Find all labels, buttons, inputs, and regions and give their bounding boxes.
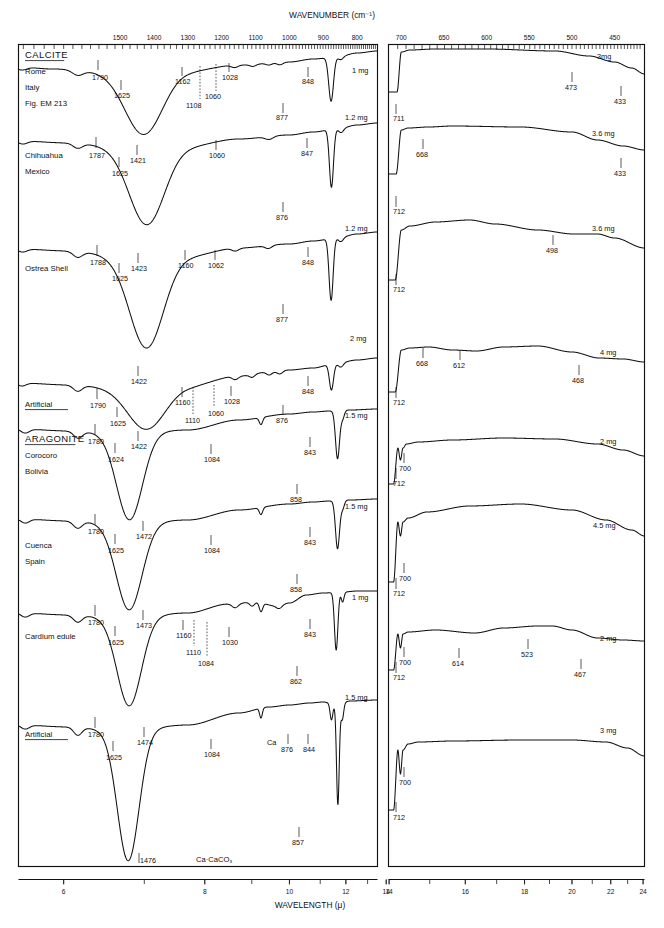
sample-name-label: Rome bbox=[25, 67, 46, 76]
sample-mass-label: 1.5 mg bbox=[345, 693, 368, 702]
band-wavenumber-label: 1790 bbox=[90, 401, 106, 410]
band-wavenumber-label: 1788 bbox=[90, 258, 106, 267]
axis-ticks bbox=[0, 45, 643, 885]
sample-name-label: ARAGONITE bbox=[25, 433, 85, 444]
band-wavenumber-label: 1780 bbox=[88, 618, 104, 627]
band-wavenumber-label: 1625 bbox=[108, 638, 124, 647]
sample-mass-label: 3 mg bbox=[600, 726, 616, 735]
right-wavenumber-labels: 700650600550500450 bbox=[396, 34, 621, 41]
band-wavenumber-label: 1790 bbox=[92, 73, 108, 82]
sample-mass-label: 1.2 mg bbox=[345, 113, 368, 122]
compound-note: Ca·CaCO₃ bbox=[196, 855, 232, 864]
bottom-axis-title: WAVELENGTH (μ) bbox=[275, 900, 346, 910]
wavelength-tick-label: 6 bbox=[62, 888, 66, 895]
band-wavenumber-label: 712 bbox=[393, 398, 405, 407]
band-wavenumber-label: 843 bbox=[304, 538, 316, 547]
sample-name-labels: CALCITERomeItalyFig. EM 213ChihuahuaMexi… bbox=[25, 49, 85, 740]
band-wavenumber-label: 1084 bbox=[198, 659, 214, 668]
wavelength-tick-label: 16 bbox=[462, 888, 470, 895]
band-wavenumber-label: 862 bbox=[290, 677, 302, 686]
band-wavenumber-label: 712 bbox=[393, 813, 405, 822]
sample-name-label: Chihuahua bbox=[25, 151, 63, 160]
band-wavenumber-label: 1084 bbox=[204, 750, 220, 759]
band-wavenumber-label: 712 bbox=[393, 673, 405, 682]
sample-mass-label: 1.2 mg bbox=[345, 224, 368, 233]
sample-name-label: Artificial bbox=[25, 400, 53, 409]
band-wavenumber-label: 1108 bbox=[186, 101, 201, 110]
band-wavenumber-label: 848 bbox=[302, 387, 314, 396]
band-wavenumber-label: 1028 bbox=[222, 73, 238, 82]
band-wavenumber-label: 1780 bbox=[88, 527, 104, 536]
band-wavenumber-label: 1422 bbox=[131, 442, 147, 451]
sample-mass-label: 3mg bbox=[597, 52, 611, 61]
left-wavenumber-labels: 150014001300120011001000900800 bbox=[113, 34, 363, 41]
figure-canvas: WAVENUMBER (cm⁻¹) WAVELENGTH (μ) 1500140… bbox=[0, 0, 664, 928]
ca-marker-label: Ca bbox=[267, 738, 277, 747]
wavenumber-tick-label: 450 bbox=[609, 34, 620, 41]
spectrum-curve bbox=[19, 700, 378, 861]
band-wavenumber-label: 473 bbox=[565, 83, 577, 92]
right-band-annotations: 3mg4734337113.6 mg6684337123.6 mg4987124… bbox=[393, 52, 626, 822]
band-wavenumber-label: 1624 bbox=[108, 455, 124, 464]
sample-mass-label: 2 mg bbox=[600, 634, 616, 643]
sample-mass-label: 4 mg bbox=[600, 348, 616, 357]
spectrum-curve bbox=[389, 626, 645, 670]
band-wavenumber-label: 498 bbox=[546, 246, 558, 255]
band-wavenumber-label: 1474 bbox=[137, 738, 153, 747]
band-wavenumber-label: 614 bbox=[452, 659, 464, 668]
wavenumber-tick-label: 1100 bbox=[248, 34, 263, 41]
sample-mass-label: 1.5 mg bbox=[345, 411, 368, 420]
sample-name-label: Ostrea Shell bbox=[25, 264, 68, 273]
band-wavenumber-label: 876 bbox=[276, 416, 288, 425]
band-wavenumber-label: 1780 bbox=[88, 437, 104, 446]
wavenumber-tick-label: 500 bbox=[566, 34, 577, 41]
band-wavenumber-label: 1625 bbox=[112, 274, 128, 283]
band-wavenumber-label: 1473 bbox=[136, 621, 152, 630]
band-wavenumber-label: 433 bbox=[614, 169, 626, 178]
left-wavelength-labels: 68101214 bbox=[62, 888, 390, 895]
band-wavenumber-label: 1110 bbox=[185, 416, 200, 425]
top-axis-title: WAVENUMBER (cm⁻¹) bbox=[289, 10, 375, 20]
wavenumber-tick-label: 1000 bbox=[282, 34, 297, 41]
left-spectra-curves bbox=[19, 51, 378, 861]
wavelength-tick-label: 22 bbox=[607, 888, 615, 895]
band-wavenumber-label: 858 bbox=[290, 495, 302, 504]
band-wavenumber-label: 1162 bbox=[175, 77, 190, 86]
band-wavenumber-label: 433 bbox=[614, 97, 626, 106]
sample-name-label: Mexico bbox=[25, 167, 50, 176]
sample-name-label: Cardium edule bbox=[25, 632, 76, 641]
band-wavenumber-label: 712 bbox=[393, 285, 405, 294]
sample-name-label: Cuenca bbox=[25, 541, 53, 550]
band-wavenumber-label: 711 bbox=[393, 114, 404, 123]
band-wavenumber-label: 843 bbox=[304, 630, 316, 639]
band-wavenumber-label: 843 bbox=[304, 448, 316, 457]
right-plot-frame bbox=[389, 45, 645, 867]
band-wavenumber-label: 1625 bbox=[112, 169, 128, 178]
wavelength-tick-label: 20 bbox=[568, 888, 576, 895]
band-wavenumber-label: 1160 bbox=[176, 631, 191, 640]
sample-name-label: Artificial bbox=[25, 730, 53, 739]
sample-mass-label: 1.5 mg bbox=[345, 502, 368, 511]
wavenumber-tick-label: 1400 bbox=[147, 34, 162, 41]
band-wavenumber-label: 1421 bbox=[130, 156, 146, 165]
band-wavenumber-label: 1060 bbox=[208, 409, 224, 418]
band-wavenumber-label: 1476 bbox=[140, 856, 156, 865]
band-wavenumber-label: 700 bbox=[399, 658, 411, 667]
wavenumber-tick-label: 800 bbox=[352, 34, 363, 41]
band-wavenumber-label: 876 bbox=[281, 745, 293, 754]
band-wavenumber-label: 1160 bbox=[175, 398, 190, 407]
sample-name-label: CALCITE bbox=[25, 49, 68, 60]
wavenumber-tick-label: 650 bbox=[438, 34, 449, 41]
band-wavenumber-label: 877 bbox=[276, 113, 288, 122]
wavenumber-tick-label: 550 bbox=[524, 34, 535, 41]
right-spectra-curves bbox=[389, 49, 645, 810]
band-wavenumber-label: 876 bbox=[276, 213, 288, 222]
wavenumber-tick-label: 1500 bbox=[113, 34, 128, 41]
band-wavenumber-label: 1160 bbox=[178, 261, 193, 270]
band-wavenumber-label: 700 bbox=[399, 778, 411, 787]
band-wavenumber-label: 712 bbox=[393, 479, 405, 488]
wavenumber-tick-label: 700 bbox=[396, 34, 407, 41]
spectrum-curve bbox=[19, 232, 378, 348]
band-wavenumber-label: 612 bbox=[453, 361, 465, 370]
spectrum-curve bbox=[389, 740, 645, 810]
